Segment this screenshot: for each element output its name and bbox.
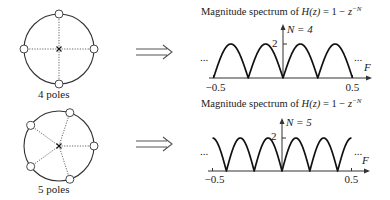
title-prefix: Magnitude spectrum of — [201, 98, 302, 109]
pole-marker-icon — [57, 144, 62, 149]
zero-marker-icon — [20, 45, 28, 53]
y-tick-label: 2 — [272, 38, 278, 49]
x-max-label: 0.5 — [345, 174, 359, 185]
zero-marker-icon — [66, 109, 74, 117]
x-axis-label: F — [364, 62, 371, 73]
title-exponent: −N — [352, 97, 361, 105]
radial-dotted-line — [59, 146, 70, 179]
pole-marker-icon — [57, 47, 62, 52]
pole-zero-diagram: 4 poles Magnitude spectrum of H(z) = 1 −… — [0, 0, 390, 200]
title-func: H(z) — [302, 6, 321, 17]
ellipsis-right: ... — [354, 146, 362, 157]
x-min-label: −0.5 — [206, 82, 226, 93]
ellipsis-left: ... — [200, 146, 208, 157]
x-axis-arrow-icon — [364, 169, 370, 174]
title-func: H(z) — [302, 98, 321, 109]
x-axis-arrow-icon — [366, 76, 372, 81]
zero-marker-icon — [90, 142, 98, 150]
title-prefix: Magnitude spectrum of — [201, 6, 302, 17]
implies-arrow-icon — [136, 45, 172, 59]
zero-marker-icon — [27, 121, 35, 129]
x-axis-label: F — [362, 155, 369, 166]
chart-title: Magnitude spectrum of H(z) = 1 − z−N — [201, 6, 361, 18]
ellipsis-right: ... — [354, 52, 362, 63]
title-mid: = 1 − — [320, 6, 348, 17]
radial-dotted-line — [31, 125, 59, 146]
y-axis-arrow-icon — [280, 118, 285, 124]
pole-count-label: 5 poles — [38, 184, 69, 195]
pole-count-label: 4 poles — [38, 89, 69, 100]
zero-marker-icon — [27, 163, 35, 171]
y-tick-label: 2 — [271, 131, 277, 142]
title-exponent: −N — [352, 5, 361, 13]
x-max-label: 0.5 — [346, 82, 360, 93]
radial-dotted-line — [31, 146, 59, 167]
y-axis-arrow-icon — [281, 24, 286, 30]
chart-title: Magnitude spectrum of H(z) = 1 − z−N — [201, 98, 361, 110]
n-value-label: N = 4 — [287, 24, 313, 35]
n-value-label: N = 5 — [286, 117, 312, 128]
zero-marker-icon — [55, 10, 63, 18]
implies-arrow-icon — [136, 137, 172, 151]
zero-marker-icon — [55, 80, 63, 88]
title-mid: = 1 − — [320, 98, 348, 109]
ellipsis-left: ... — [200, 52, 208, 63]
radial-dotted-line — [59, 113, 70, 146]
zero-marker-icon — [90, 45, 98, 53]
x-min-label: −0.5 — [205, 174, 225, 185]
